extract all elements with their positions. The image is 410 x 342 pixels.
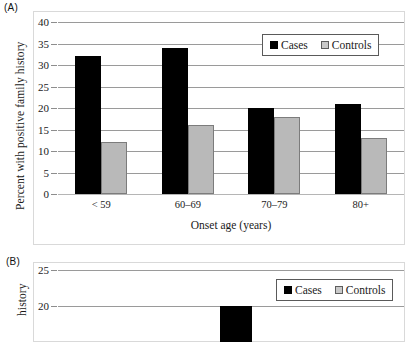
y-axis-tick-mark [51, 306, 57, 307]
bar-cases [220, 306, 252, 342]
y-axis-tick-label: 25 [38, 264, 49, 276]
bar-cases [162, 48, 188, 194]
legend-swatch-cases-icon [270, 41, 278, 49]
bar-cases [75, 56, 101, 194]
y-axis-tick-mark [51, 87, 57, 88]
gridline [58, 194, 404, 195]
bar-cases [335, 104, 361, 194]
y-axis-tick-mark [51, 270, 57, 271]
panel-b: (B) history 2025 Cases Controls [0, 250, 410, 319]
y-axis-tick-label: 35 [38, 38, 49, 50]
bar-cases [248, 108, 274, 194]
panel-a-label: (A) [4, 2, 18, 13]
y-axis-tick-mark [51, 22, 57, 23]
legend-a: Cases Controls [262, 34, 379, 56]
y-axis-tick-mark [51, 173, 57, 174]
x-axis-tick-label: 60–69 [175, 199, 201, 210]
legend-label-controls: Controls [346, 284, 386, 296]
x-axis-title-a: Onset age (years) [58, 219, 404, 231]
y-axis-tick-mark [51, 194, 57, 195]
y-axis-tick-label: 40 [38, 16, 49, 28]
legend-item-cases-a: Cases [270, 39, 308, 51]
y-axis-tick-mark [51, 151, 57, 152]
legend-item-controls-b: Controls [335, 284, 386, 296]
bar-controls [274, 117, 300, 194]
x-axis-tick-label: 70–79 [261, 199, 287, 210]
y-axis-tick-mark [51, 108, 57, 109]
panel-b-label: (B) [6, 256, 20, 267]
y-axis-tick-label: 10 [38, 145, 49, 157]
x-axis-tick-label: < 59 [92, 199, 111, 210]
y-axis-tick-label: 20 [38, 300, 49, 312]
bar-controls [361, 138, 387, 194]
y-axis-tick-mark [51, 44, 57, 45]
legend-item-cases-b: Cases [284, 284, 322, 296]
y-axis-title-b: history [16, 283, 28, 316]
bar-controls [101, 142, 127, 194]
y-axis-title-a: Percent with positive family history [14, 42, 26, 210]
legend-item-controls-a: Controls [321, 39, 372, 51]
y-axis-tick-label: 5 [44, 167, 50, 179]
y-axis-tick-mark [51, 65, 57, 66]
y-axis-tick-label: 25 [38, 81, 49, 93]
legend-swatch-controls-icon [335, 286, 343, 294]
legend-label-controls: Controls [332, 39, 372, 51]
panel-a: (A) Percent with positive family history… [0, 0, 410, 248]
bar-controls [188, 125, 214, 194]
legend-b: Cases Controls [276, 279, 393, 301]
y-axis-tick-label: 15 [38, 124, 49, 136]
y-axis-tick-label: 20 [38, 102, 49, 114]
y-axis-tick-label: 0 [44, 188, 50, 200]
x-axis-tick-labels-a: < 5960–6970–7980+ [58, 199, 404, 213]
legend-swatch-cases-icon [284, 286, 292, 294]
y-axis-tick-label: 30 [38, 59, 49, 71]
x-axis-tick-label: 80+ [353, 199, 369, 210]
legend-label-cases: Cases [281, 39, 308, 51]
y-axis-tick-mark [51, 130, 57, 131]
legend-label-cases: Cases [295, 284, 322, 296]
legend-swatch-controls-icon [321, 41, 329, 49]
